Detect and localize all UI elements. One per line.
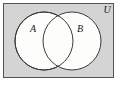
venn-diagram-canvas: U A B bbox=[0, 0, 120, 85]
set-b-label: B bbox=[77, 23, 83, 34]
set-b-circle bbox=[43, 12, 101, 70]
venn-diagram-figure: U A B bbox=[0, 0, 120, 85]
universal-set-label: U bbox=[103, 4, 111, 15]
set-a-label: A bbox=[29, 23, 37, 34]
